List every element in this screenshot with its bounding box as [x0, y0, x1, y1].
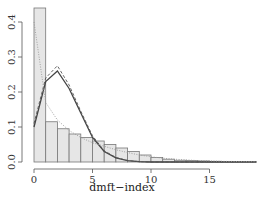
histogram-bar — [81, 138, 93, 163]
histogram-bar — [151, 157, 163, 162]
histogram-bar — [46, 122, 58, 162]
x-axis-title: dmft−index — [89, 181, 155, 194]
histogram-bar — [57, 129, 69, 162]
y-tick-label: 0.0 — [6, 154, 17, 170]
histogram-bar — [69, 134, 81, 162]
histogram-bar — [34, 8, 46, 162]
y-axis: 0.00.10.20.30.4 — [6, 14, 22, 170]
histogram-chart: 0.00.10.20.30.4 051015 dmft−index — [0, 0, 268, 203]
y-tick-label: 0.1 — [6, 119, 17, 135]
y-tick-label: 0.4 — [6, 14, 17, 30]
x-tick-label: 15 — [203, 174, 216, 185]
y-tick-label: 0.2 — [6, 84, 17, 100]
y-tick-label: 0.3 — [6, 49, 17, 65]
histogram-bar — [104, 145, 116, 163]
x-tick-label: 0 — [31, 174, 37, 185]
